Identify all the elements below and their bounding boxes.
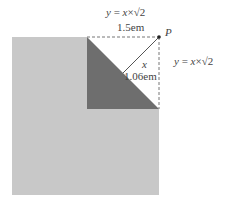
formula-eq: = xyxy=(111,6,123,18)
diag-length-label: 1.06em xyxy=(124,70,157,82)
point-p-label: P xyxy=(165,26,172,38)
top-length-label: 1.5em xyxy=(117,21,144,33)
point-p-marker xyxy=(157,35,161,39)
formula-root: √2 xyxy=(134,6,146,18)
right-formula: y = x×√2 xyxy=(174,55,213,67)
diagram-canvas xyxy=(0,0,225,209)
formula-eq: = xyxy=(179,55,191,67)
diag-var-label: x xyxy=(142,58,147,70)
formula-root: √2 xyxy=(202,55,214,67)
top-formula: y = x×√2 xyxy=(106,6,145,18)
